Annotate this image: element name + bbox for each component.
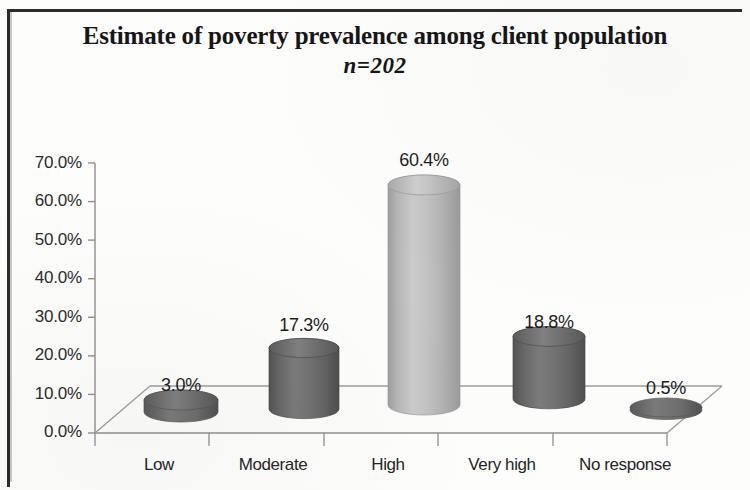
y-tick-label-30: 30.0% <box>8 307 82 327</box>
x-category-label-moderate: Moderate <box>216 455 330 475</box>
value-label-low: 3.0% <box>131 375 231 396</box>
y-tick-label-20: 20.0% <box>8 345 82 365</box>
value-label-very-high: 18.8% <box>499 312 599 333</box>
chart-svg <box>0 0 750 490</box>
x-category-label-no-response: No response <box>560 455 690 475</box>
y-tick-label-70: 70.0% <box>8 153 82 173</box>
y-tick-label-40: 40.0% <box>8 268 82 288</box>
x-category-label-low: Low <box>102 455 216 475</box>
y-tick-label-60: 60.0% <box>8 191 82 211</box>
y-tick-label-10: 10.0% <box>8 384 82 404</box>
value-label-high: 60.4% <box>374 150 474 171</box>
bar-very-high[interactable] <box>513 327 585 409</box>
bar-moderate[interactable] <box>269 338 339 418</box>
bar-high[interactable] <box>388 175 460 415</box>
y-tick-label-0: 0.0% <box>8 422 82 442</box>
plot-area: 70.0% 60.0% 50.0% 40.0% 30.0% 20.0% 10.0… <box>0 0 750 490</box>
x-axis-ticks <box>95 433 667 446</box>
x-category-label-high: High <box>331 455 445 475</box>
y-axis-ticks <box>88 163 95 433</box>
y-tick-label-50: 50.0% <box>8 230 82 250</box>
bar-no-response[interactable] <box>630 398 702 420</box>
chart-page: Estimate of poverty prevalence among cli… <box>0 0 750 490</box>
value-label-no-response: 0.5% <box>616 378 716 399</box>
value-label-moderate: 17.3% <box>254 315 354 336</box>
x-category-label-very-high: Very high <box>445 455 559 475</box>
